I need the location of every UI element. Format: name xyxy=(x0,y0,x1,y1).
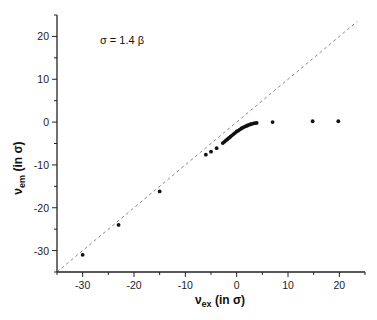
x-axis-label: νex (in σ) xyxy=(195,293,245,309)
y-label-rest: (in σ) xyxy=(11,141,25,175)
x-tick-label: 0 xyxy=(234,279,240,291)
x-label-rest: (in σ) xyxy=(212,293,246,307)
sigma-annotation: σ = 1.4 β xyxy=(100,34,144,46)
data-point xyxy=(204,153,208,157)
x-tick-label: -10 xyxy=(178,279,193,291)
data-point xyxy=(255,121,259,125)
data-point xyxy=(209,150,213,154)
y-label-sub: em xyxy=(17,175,27,188)
data-point xyxy=(271,120,275,124)
data-point xyxy=(158,190,162,194)
y-tick-label: -20 xyxy=(34,202,49,214)
data-point xyxy=(336,119,340,123)
data-point xyxy=(117,223,121,227)
y-tick-label: 20 xyxy=(37,30,49,42)
plot-area xyxy=(57,21,357,272)
x-tick-label: 20 xyxy=(333,279,345,291)
data-point xyxy=(311,119,315,123)
reference-line-y-equals-x xyxy=(57,21,357,272)
scatter-chart: -30-20-1001020 20100-10-20-30 σ = 1.4 β … xyxy=(0,0,377,320)
y-tick-label: -30 xyxy=(34,245,49,257)
y-tick-label: -10 xyxy=(34,159,49,171)
y-axis-label: νem (in σ) xyxy=(11,141,27,194)
x-axis-ticks: -30-20-1001020 xyxy=(57,272,365,291)
x-tick-label: 10 xyxy=(282,279,294,291)
y-tick-label: 0 xyxy=(43,116,49,128)
y-axis-ticks: 20100-10-20-30 xyxy=(34,15,57,272)
x-tick-label: -20 xyxy=(126,279,141,291)
x-tick-label: -30 xyxy=(75,279,90,291)
data-point xyxy=(215,146,219,150)
y-tick-label: 10 xyxy=(37,73,49,85)
data-point xyxy=(81,253,85,257)
x-label-sub: ex xyxy=(202,299,212,309)
